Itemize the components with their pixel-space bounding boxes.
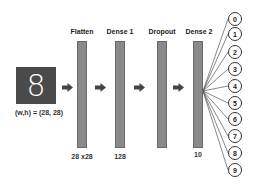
layer-bar-dropout bbox=[157, 41, 167, 148]
arrow-right-icon bbox=[62, 83, 73, 92]
output-node-5: 5 bbox=[228, 96, 242, 110]
input-image: 8 bbox=[16, 67, 56, 104]
input-digit: 8 bbox=[26, 71, 45, 101]
output-node-6: 6 bbox=[228, 112, 242, 126]
output-node-0: 0 bbox=[228, 12, 242, 26]
input-dimensions-label: (w,h) = (28, 28) bbox=[8, 109, 70, 116]
layer-bar-dense-2 bbox=[193, 41, 203, 148]
arrow-right-icon bbox=[95, 83, 106, 92]
layer-bar-flatten bbox=[77, 41, 87, 148]
output-node-2: 2 bbox=[228, 45, 242, 59]
output-node-8: 8 bbox=[228, 146, 242, 160]
layer-size-dense-2: 10 bbox=[173, 151, 223, 158]
layer-bar-dense-1 bbox=[115, 41, 125, 148]
output-node-9: 9 bbox=[228, 163, 242, 177]
layer-title-dense-2: Dense 2 bbox=[174, 28, 224, 35]
output-node-3: 3 bbox=[228, 62, 242, 76]
arrow-right-icon bbox=[173, 83, 184, 92]
arrow-right-icon bbox=[134, 83, 145, 92]
layer-size-dense-1: 128 bbox=[95, 153, 145, 160]
output-node-7: 7 bbox=[228, 129, 242, 143]
output-node-1: 1 bbox=[228, 27, 242, 41]
output-node-4: 4 bbox=[228, 79, 242, 93]
